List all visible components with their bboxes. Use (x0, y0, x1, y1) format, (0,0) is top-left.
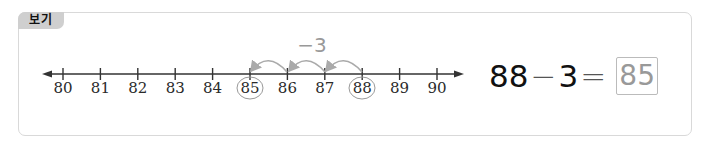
equation: 88 − 3 = 85 (489, 56, 658, 96)
tick-label-89: 89 (390, 79, 409, 97)
subtrahend: 3 (558, 58, 578, 94)
tick-label-81: 81 (91, 79, 110, 97)
tick-label-86: 86 (278, 79, 297, 97)
jump-arrow-88-87 (326, 61, 362, 72)
equals-sign: = (580, 58, 606, 94)
number-line: 8081828384858687888990 −3 (0, 0, 480, 147)
tick-label-84: 84 (203, 79, 222, 97)
tick-label-80: 80 (53, 79, 72, 97)
minuend: 88 (489, 58, 528, 94)
right-arrow-icon (454, 71, 464, 78)
jump-label: −3 (297, 33, 326, 57)
tick-label-90: 90 (427, 79, 446, 97)
jump-arrow-86-85 (251, 61, 287, 72)
answer-box: 85 (616, 57, 658, 95)
tick-label-83: 83 (166, 79, 185, 97)
jump-arrow-87-86 (289, 61, 325, 72)
tick-label-88: 88 (353, 79, 372, 97)
tick-labels: 8081828384858687888990 (53, 79, 446, 97)
minus-sign: − (530, 58, 556, 94)
left-arrow-icon (42, 71, 52, 78)
tick-label-82: 82 (128, 79, 147, 97)
tick-label-87: 87 (315, 79, 334, 97)
tick-label-85: 85 (240, 79, 259, 97)
